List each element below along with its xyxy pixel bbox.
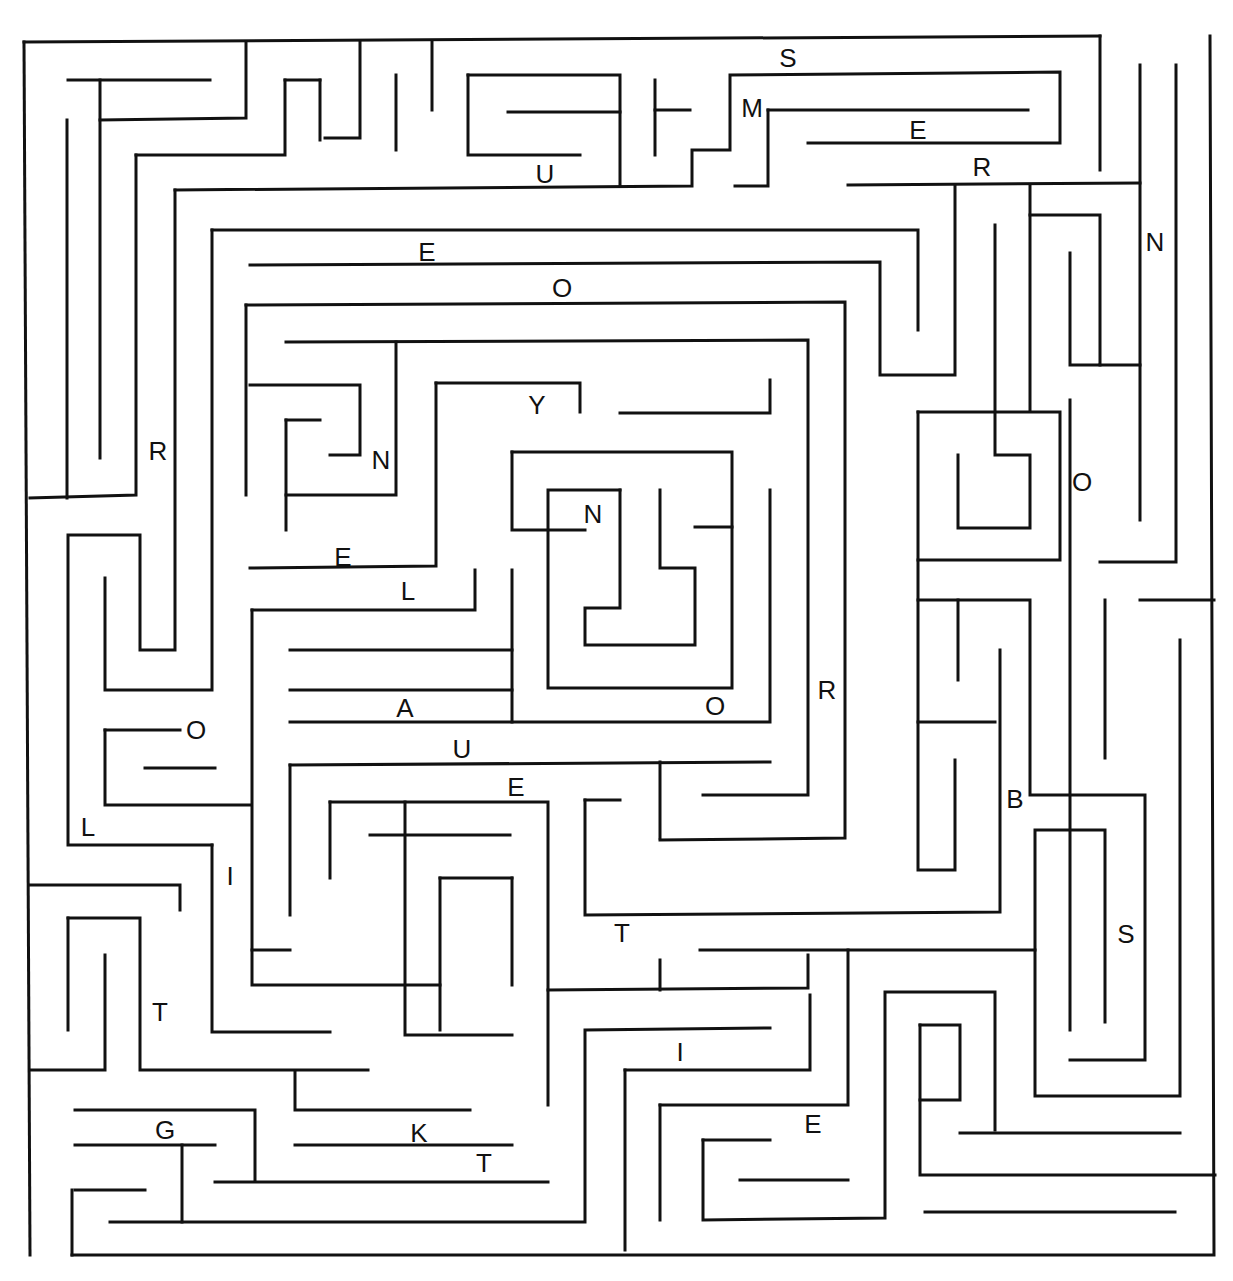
- maze-letter: I: [226, 863, 233, 889]
- maze-letter: R: [149, 438, 168, 464]
- maze-letter: R: [973, 154, 992, 180]
- maze-letter: N: [372, 447, 391, 473]
- maze-letter: O: [186, 717, 206, 743]
- maze-letter: E: [909, 117, 926, 143]
- maze-letter: I: [676, 1039, 683, 1065]
- maze-letter: O: [705, 693, 725, 719]
- maze-letter: A: [396, 695, 413, 721]
- maze-letter: U: [453, 736, 472, 762]
- maze-letter: M: [741, 95, 763, 121]
- maze-letter: E: [334, 544, 351, 570]
- maze-letter: T: [476, 1150, 492, 1176]
- maze-letter: E: [507, 774, 524, 800]
- maze-letter: L: [401, 578, 415, 604]
- maze-letter: T: [152, 999, 168, 1025]
- maze-letter: S: [1117, 921, 1134, 947]
- maze-letter: S: [779, 45, 796, 71]
- maze-letter: G: [155, 1117, 175, 1143]
- maze-letter: B: [1006, 786, 1023, 812]
- maze-letter: T: [614, 920, 630, 946]
- maze-letter: R: [818, 677, 837, 703]
- maze-letter: O: [552, 275, 572, 301]
- maze-letter: K: [410, 1120, 427, 1146]
- maze-letter: E: [804, 1111, 821, 1137]
- maze-walls: [0, 0, 1233, 1281]
- maze-letter: L: [81, 814, 95, 840]
- maze-letter: U: [536, 161, 555, 187]
- maze-letter: N: [1146, 229, 1165, 255]
- maze-letter: N: [584, 501, 603, 527]
- maze-letter: E: [418, 239, 435, 265]
- maze-letter: Y: [528, 392, 545, 418]
- maze-letter: O: [1072, 469, 1092, 495]
